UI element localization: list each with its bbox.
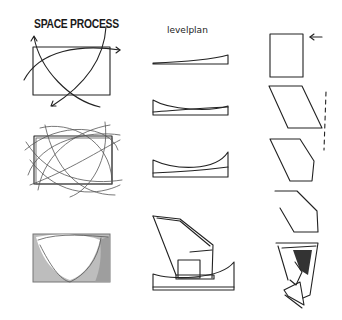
- form-study-2: [269, 86, 326, 150]
- levelplan-sketch-3: [153, 152, 228, 177]
- sketch-canvas: [0, 0, 342, 320]
- space-process-sketch-1: [24, 27, 120, 107]
- space-process-sketch-3: [33, 234, 110, 282]
- levelplan-sketch-1: [153, 55, 228, 64]
- form-study-4: [275, 191, 318, 232]
- form-study-5: [276, 243, 318, 308]
- form-study-3: [270, 139, 314, 181]
- levelplan-sketch-4: [153, 216, 234, 290]
- space-process-sketch-2: [25, 122, 122, 197]
- levelplan-sketch-2: [153, 100, 228, 115]
- form-study-1: [270, 34, 322, 77]
